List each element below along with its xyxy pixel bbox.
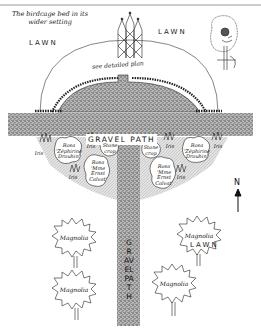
- plant-label-iris: Iris: [211, 144, 225, 150]
- plant-label-iris: Iris: [66, 175, 80, 181]
- plant-label-iris: Iris: [84, 144, 98, 150]
- tree-label-magnolia: Magnolia: [154, 281, 194, 287]
- gravel-path-vertical-label: GRAVEL PATH: [124, 238, 134, 301]
- plant-label-iris: Iris: [174, 175, 188, 181]
- birdcage-structure-icon: [118, 12, 142, 58]
- gravel-path-horizontal: [8, 113, 253, 136]
- plant-label-rosa-zephirine: Rosa 'Zéphirine Drouhin': [184, 143, 210, 160]
- plant-label-stonecrop: Stonecrop: [102, 143, 118, 154]
- standard-rose-icon: [211, 16, 238, 70]
- tree-label-magnolia: Magnolia: [54, 235, 94, 241]
- caption-line-2: wider setting: [28, 18, 72, 26]
- plant-label-iris: Iris: [163, 144, 177, 150]
- plant-label-rosa-mme-ernst-calvat: Rosa 'Mme Ernst Calvat': [154, 164, 174, 186]
- caption-line-1: The birdcage bed in its: [12, 10, 88, 18]
- plant-label-rosa-zephirine: Rosa 'Zéphirine Drouhin': [56, 143, 82, 160]
- plant-label-stonecrop: Stonecrop: [143, 145, 159, 156]
- lawn-label-top-left: LAWN: [29, 40, 58, 47]
- north-label: N: [234, 178, 240, 187]
- diagram-caption: The birdcage bed in its wider setting: [11, 10, 89, 26]
- lawn-label-top-right: LAWN: [158, 29, 187, 36]
- tree-label-magnolia: Magnolia: [54, 287, 94, 293]
- north-arrow-icon: [235, 189, 241, 212]
- birdcage-gravel-dome: [58, 75, 200, 112]
- tree-label-magnolia: Magnolia: [179, 233, 219, 239]
- plant-label-iris: Iris: [32, 151, 46, 157]
- plant-label-rosa-mme-ernst-calvat: Rosa 'Mme Ernst Calvat': [88, 160, 108, 182]
- lawn-label-bottom-right: LAWN: [190, 242, 219, 249]
